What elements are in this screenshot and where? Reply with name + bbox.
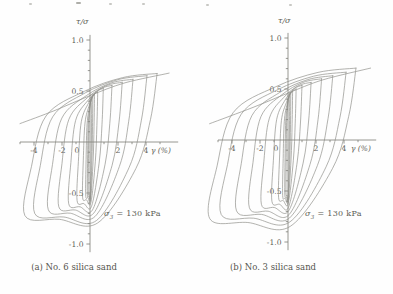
x-tick-label: -2 bbox=[58, 146, 66, 155]
backbone-curve bbox=[210, 68, 371, 124]
y-tick-label: -1.0 bbox=[69, 240, 84, 249]
annotation-value: = 130 kPa bbox=[315, 209, 362, 218]
x-tick-label: -2 bbox=[256, 144, 264, 153]
y-tick-label: 1.0 bbox=[71, 36, 83, 45]
x-tick-label: 2 bbox=[116, 146, 121, 155]
hysteresis-charts-svg: -4-20241.00.5-0.5-1.0-4-20241.00.5-0.5-1… bbox=[0, 0, 393, 294]
x-tick-label: 4 bbox=[144, 146, 149, 155]
x-axis-label-b: γ (%) bbox=[351, 144, 371, 153]
x-tick-label: 4 bbox=[342, 144, 347, 153]
confining-pressure-annotation-b: σ3 = 130 kPa bbox=[305, 209, 362, 220]
confining-pressure-annotation-a: σ3 = 130 kPa bbox=[104, 209, 161, 220]
annotation-value: = 130 kPa bbox=[114, 209, 161, 218]
figure-page: -4-20241.00.5-0.5-1.0-4-20241.00.5-0.5-1… bbox=[0, 0, 393, 294]
chart-a-plot: -4-20241.00.5-0.5-1.0 bbox=[20, 35, 178, 252]
x-tick-label: -4 bbox=[228, 144, 236, 153]
caption-a: (a) No. 6 silica sand bbox=[18, 262, 130, 272]
y-axis-label-a: τ/σ bbox=[76, 17, 89, 26]
y-tick-label: 1.0 bbox=[269, 34, 281, 43]
y-tick-label: -0.5 bbox=[69, 189, 84, 198]
y-tick-label: -1.0 bbox=[267, 238, 282, 247]
caption-b: (b) No. 3 silica sand bbox=[217, 262, 329, 272]
x-axis-label-a: γ (%) bbox=[151, 146, 171, 155]
y-axis-label-b: τ/σ bbox=[278, 16, 291, 25]
y-tick-label: -0.5 bbox=[267, 187, 282, 196]
